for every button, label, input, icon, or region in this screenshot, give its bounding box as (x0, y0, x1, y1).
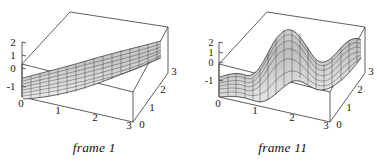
z-tick-0: 0 (208, 57, 213, 68)
z-tick-0: 0 (10, 62, 16, 74)
z-tick-neg1: -1 (204, 75, 212, 86)
z-tick-1: 1 (10, 49, 16, 61)
x-tick-1: 1 (252, 104, 258, 116)
z-tick-neg1: -1 (6, 80, 15, 92)
x-tick-3: 3 (126, 119, 132, 131)
z-tick-2: 2 (10, 36, 16, 48)
surface-mesh-frame-1 (23, 41, 161, 99)
plot-area-frame-1: 2 1 0 -1 0 1 2 3 0 1 2 3 (0, 0, 189, 142)
z-tick-labels-frame-1: 2 1 0 -1 (6, 36, 16, 92)
x-tick-2: 2 (92, 111, 98, 123)
x-tick-2: 2 (289, 111, 295, 123)
y-tick-2: 2 (160, 83, 166, 95)
surface-plot-panel-frame-1: 2 1 0 -1 0 1 2 3 0 1 2 3 (0, 0, 189, 168)
plot-area-frame-11: 2 1 0 -1 0 1 2 3 0 1 2 3 (189, 0, 377, 142)
x-tick-3: 3 (323, 119, 329, 131)
surface-plot-panel-frame-11: 2 1 0 -1 0 1 2 3 0 1 2 3 (189, 0, 377, 168)
caption-frame-11: frame 11 (189, 140, 377, 156)
surface-mesh-frame-11 (220, 30, 361, 103)
x-tick-labels-frame-1: 0 1 2 3 (18, 97, 132, 131)
y-tick-1: 1 (149, 101, 155, 113)
x-tick-0: 0 (215, 97, 221, 109)
y-tick-0: 0 (336, 118, 342, 130)
z-tick-labels-frame-11: 2 1 0 -1 (204, 37, 213, 86)
y-tick-1: 1 (346, 101, 352, 113)
y-tick-3: 3 (171, 65, 177, 77)
caption-frame-1: frame 1 (0, 140, 189, 156)
x-tick-0: 0 (18, 97, 24, 109)
x-tick-labels-frame-11: 0 1 2 3 (215, 97, 329, 131)
x-tick-1: 1 (55, 104, 61, 116)
y-tick-labels-frame-1: 0 1 2 3 (139, 65, 177, 130)
y-tick-2: 2 (357, 83, 363, 95)
y-tick-0: 0 (139, 118, 145, 130)
figure-row: 2 1 0 -1 0 1 2 3 0 1 2 3 (0, 0, 377, 168)
y-tick-3: 3 (368, 65, 374, 77)
